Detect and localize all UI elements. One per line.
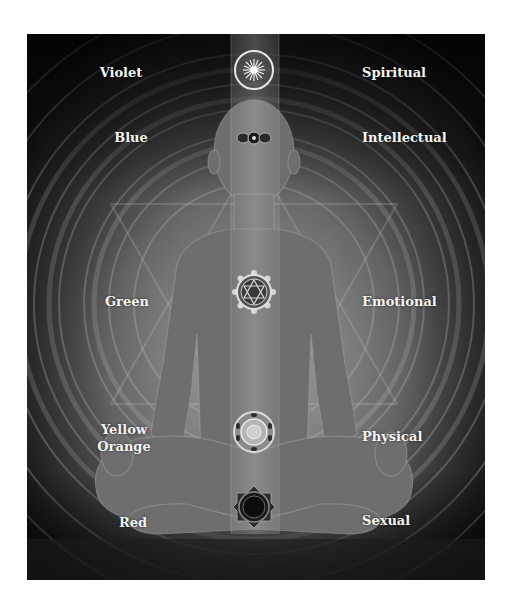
label-yellow: Yellow — [79, 422, 169, 438]
radiant-sun-circle-icon — [233, 49, 275, 91]
label-blue: Blue — [86, 130, 176, 146]
lotus-mandala-icon — [232, 410, 276, 454]
dark-lotus-ring-icon — [232, 485, 276, 529]
label-intellectual: Intellectual — [362, 130, 447, 146]
label-orange: Orange — [79, 439, 169, 455]
label-green: Green — [82, 294, 172, 310]
label-red: Red — [88, 515, 178, 531]
label-spiritual: Spiritual — [362, 65, 426, 81]
label-emotional: Emotional — [362, 294, 437, 310]
chakra-illustration: Violet Blue Green Yellow Orange Red Spir… — [27, 34, 485, 580]
three-dot-eye-icon — [235, 130, 273, 146]
label-sexual: Sexual — [362, 513, 410, 529]
hexagram-lotus-icon — [232, 270, 276, 314]
label-physical: Physical — [362, 429, 422, 445]
copyright-mark: © — [402, 563, 410, 572]
label-violet: Violet — [76, 65, 166, 81]
